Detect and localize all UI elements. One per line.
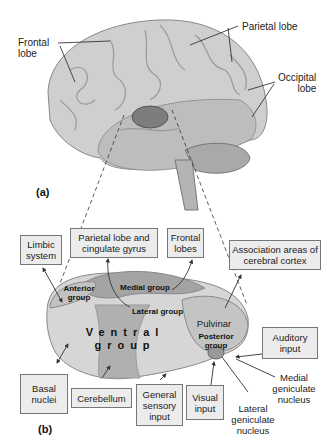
visual-input-box: Visual input [186,385,224,420]
cerebellum-box: Cerebellum [71,388,132,408]
frontal-lobe-label: Frontal lobe [18,37,49,59]
lateral-geniculate-label: Lateral geniculate nucleus [228,403,278,436]
association-areas-box: Association areas of cerebral cortex [229,240,321,270]
frontal-lobes-box: Frontal lobes [167,228,204,258]
ventral-group-label: Ventral group [80,326,170,352]
parietal-lobe-label: Parietal lobe [242,21,298,32]
limbic-system-box: Limbic system [20,235,62,265]
panel-b-label: (b) [38,423,52,435]
lateral-group-label: Lateral group [125,307,190,316]
basal-nuclei-box: Basal nuclei [20,374,68,414]
auditory-input-box: Auditory input [262,327,318,359]
parietal-cingulate-box: Parietal lobe and cingulate gyrus [70,228,158,258]
general-sensory-input-box: General sensory input [136,384,183,426]
pulvinar-label: Pulvinar [192,318,236,329]
medial-geniculate-label: Medial geniculate nucleus [264,372,324,405]
occipital-lobe-label: Occipital lobe [278,72,316,94]
posterior-group-label: Posterior group [192,332,240,350]
anterior-group-label: Anterior group [58,284,100,302]
panel-a-label: (a) [36,186,49,198]
medial-group-label: Medial group [115,283,175,292]
brain-illustration [48,20,267,210]
